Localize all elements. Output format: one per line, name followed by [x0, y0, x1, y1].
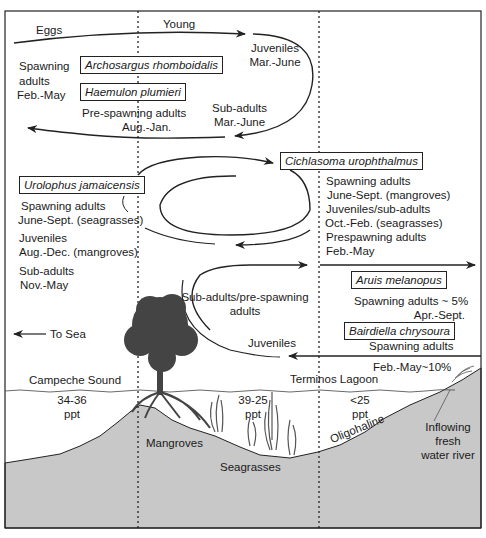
cichlasoma-line-6: Feb.-May [326, 244, 375, 258]
label-seagrasses: Seagrasses [220, 460, 281, 474]
label-aruis-months: Apr.-Sept. [380, 308, 465, 322]
label-to-sea: To Sea [50, 327, 86, 341]
label-spawning-adults: Spawning [19, 59, 70, 73]
estuary-life-cycle-diagram: Eggs Young Juveniles Mar.-June Spawning … [0, 0, 486, 538]
label-terminos-lagoon: Terminos Lagoon [290, 372, 378, 386]
salinity-seagrass-unit: ppt [228, 407, 278, 421]
label-pre-spawning-months: Aug.-Jan. [122, 120, 171, 134]
salinity-sea-unit: ppt [42, 407, 102, 421]
salinity-seagrass-value: 39-25 [228, 393, 278, 407]
label-aruis-spawning: Spawning adults ~ 5% [354, 294, 468, 308]
urolophus-line-6: Nov.-May [20, 278, 68, 292]
label-bairdiella-months: Feb.-May~10% [373, 360, 451, 374]
label-water-river: water river [412, 448, 484, 462]
arrow-middle-loop [160, 170, 310, 235]
urolophus-line-2: June-Sept. (seagrasses) [18, 213, 143, 227]
label-eggs: Eggs [36, 23, 62, 37]
label-subadults-prespawning: Sub-adults/pre-spawning [176, 290, 314, 304]
label-inflowing: Inflowing [412, 420, 484, 434]
label-sub-adults: Sub-adults [212, 101, 267, 115]
arrow-middle-return [145, 228, 215, 244]
cichlasoma-line-2: June-Sept. (mangroves) [327, 188, 450, 202]
cichlasoma-line-1: Spawning adults [326, 174, 410, 188]
label-spawning-adults-months: Feb.-May [17, 88, 66, 102]
label-campeche-sound: Campeche Sound [29, 373, 121, 387]
species-box-aruis: Aruis melanopus [351, 271, 447, 289]
arrow-urolophus-to-cichlasoma [138, 157, 273, 175]
species-box-urolophus: Urolophus jamaicensis [19, 176, 145, 194]
label-juveniles-bottom: Juveniles [248, 336, 296, 350]
label-mangroves: Mangroves [146, 436, 203, 450]
urolophus-line-5: Sub-adults [19, 264, 74, 278]
species-box-archosargus: Archosargus rhomboidalis [80, 56, 223, 74]
label-spawning-adults-2: adults [19, 74, 50, 88]
label-pre-spawning-adults: Pre-spawning adults [82, 106, 186, 120]
cichlasoma-line-3: Juveniles/sub-adults [326, 202, 430, 216]
water-surface-line [5, 390, 455, 392]
species-box-haemulon: Haemulon plumieri [80, 83, 186, 101]
label-bairdiella-spawning: Spawning adults [369, 339, 453, 353]
cichlasoma-line-5: Prespawning adults [326, 230, 426, 244]
species-box-cichlasoma: Cichlasoma urophthalmus [280, 152, 423, 170]
urolophus-line-4: Aug.-Dec. (mangroves) [19, 245, 138, 259]
label-juveniles-months: Mar.-June [242, 55, 308, 69]
urolophus-line-3: Juveniles [19, 231, 67, 245]
label-young: Young [163, 17, 195, 31]
species-box-bairdiella: Bairdiella chrysoura [344, 322, 455, 340]
label-sub-adults-months: Mar.-June [214, 115, 265, 129]
urolophus-line-1: Spawning adults [21, 199, 105, 213]
salinity-sea-value: 34-36 [42, 393, 102, 407]
label-subadults-prespawning-2: adults [176, 304, 314, 318]
salinity-lagoon-value: <25 [340, 393, 380, 407]
cichlasoma-line-4: Oct.-Feb. (seagrasses) [325, 216, 443, 230]
label-juveniles: Juveniles [242, 41, 308, 55]
arrow-urolophus-bracket [123, 196, 128, 212]
label-fresh: fresh [412, 434, 484, 448]
